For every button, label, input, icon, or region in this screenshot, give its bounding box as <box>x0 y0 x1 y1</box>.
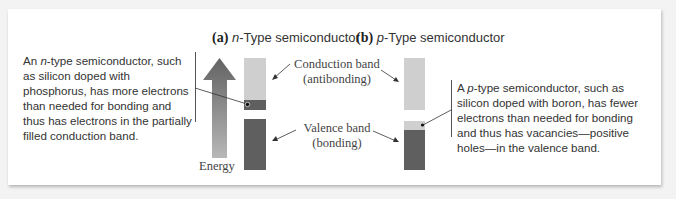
conduction-band-label-line1: Conduction band <box>292 57 382 72</box>
energy-arrow-icon <box>203 58 236 158</box>
band-diagram-graphics <box>0 0 676 199</box>
p-valence-band-filled <box>404 130 425 170</box>
p-conduction-band <box>404 58 425 110</box>
conduction-band-label: Conduction band (antibonding) <box>292 57 382 87</box>
valence-band-label: Valence band (bonding) <box>298 121 376 151</box>
valence-band-label-line1: Valence band <box>298 121 376 136</box>
n-valence-band <box>244 119 266 170</box>
valence-band-label-line2: (bonding) <box>298 136 376 151</box>
energy-label: Energy <box>199 159 235 174</box>
conduction-band-label-line2: (antibonding) <box>292 72 382 87</box>
n-conduction-band-empty <box>244 58 266 100</box>
